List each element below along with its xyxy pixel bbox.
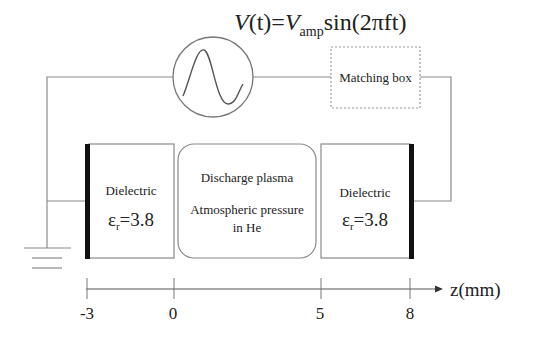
z-axis-label: z(mm) xyxy=(450,279,501,301)
equation-lhs-arg: (t) xyxy=(249,9,272,35)
z-axis: -3 0 5 8 z(mm) xyxy=(80,278,501,323)
ac-voltage-source-icon xyxy=(173,37,253,117)
discharge-plasma-region: Discharge plasma Atmospheric pressure in… xyxy=(178,144,316,258)
axis-arrow-icon xyxy=(435,286,443,293)
left-dielectric: Dielectric εr=3.8 xyxy=(85,144,174,259)
voltage-equation: V(t)=Vampsin(2πft) xyxy=(234,9,406,39)
matching-box-label: Matching box xyxy=(339,70,412,85)
left-dielectric-title: Dielectric xyxy=(105,183,156,198)
tick-label: 5 xyxy=(316,304,325,323)
right-dielectric-title: Dielectric xyxy=(339,185,390,200)
right-dielectric: Dielectric εr=3.8 xyxy=(321,144,414,259)
plasma-condition-line2: in He xyxy=(233,220,262,235)
right-electrode xyxy=(409,144,414,259)
tick-label: -3 xyxy=(80,304,94,323)
left-electrode xyxy=(85,144,90,259)
tick-label: 8 xyxy=(406,304,415,323)
equation-rhs: sin(2πft) xyxy=(324,9,407,35)
equation-equals: = xyxy=(271,9,285,35)
ground-icon xyxy=(24,248,71,268)
plasma-title: Discharge plasma xyxy=(201,170,294,185)
equation-amp-subscript: amp xyxy=(300,24,324,39)
dbd-schematic: V(t)=Vampsin(2πft) Matching box Dielectr… xyxy=(0,0,535,340)
left-dielectric-permittivity: εr=3.8 xyxy=(108,209,154,232)
right-dielectric-permittivity: εr=3.8 xyxy=(342,209,388,232)
plasma-condition-line1: Atmospheric pressure xyxy=(190,202,304,217)
tick-label: 0 xyxy=(169,304,178,323)
matching-box: Matching box xyxy=(331,47,420,108)
